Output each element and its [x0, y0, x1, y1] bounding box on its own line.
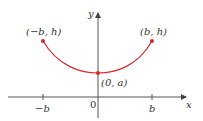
- label-left-endpoint: (−b, h): [26, 26, 61, 37]
- label-right-endpoint: (b, h): [140, 26, 167, 37]
- diagram-canvas: (−b, h) (b, h) (0, a) y x 0 −b b: [0, 0, 203, 121]
- label-vertex: (0, a): [101, 77, 128, 88]
- point-left-endpoint: [41, 39, 45, 43]
- x-tick-label-neg-b: −b: [35, 103, 50, 114]
- origin-label: 0: [90, 99, 96, 110]
- x-axis-label: x: [186, 99, 192, 110]
- catenary-diagram: (−b, h) (b, h) (0, a) y x 0 −b b: [0, 0, 203, 121]
- y-axis-label: y: [87, 8, 94, 19]
- point-vertex: [96, 71, 100, 75]
- point-right-endpoint: [150, 39, 154, 43]
- x-tick-label-b: b: [149, 103, 155, 114]
